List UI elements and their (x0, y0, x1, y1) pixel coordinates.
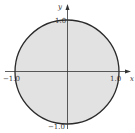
tick-y-neg: −1.0 (48, 123, 65, 131)
tick-x-pos: 1.0 (110, 75, 121, 83)
x-axis-label: x (130, 75, 134, 83)
disk-diagram: y x 1.0 −1.0 1.0 −1.0 (0, 0, 135, 133)
tick-x-neg: −1.0 (3, 75, 20, 83)
x-axis-arrow-icon (125, 70, 131, 74)
y-axis-label: y (57, 3, 63, 11)
y-axis-arrow-icon (66, 4, 70, 10)
unit-disk (15, 20, 119, 124)
tick-y-pos: 1.0 (55, 17, 66, 25)
